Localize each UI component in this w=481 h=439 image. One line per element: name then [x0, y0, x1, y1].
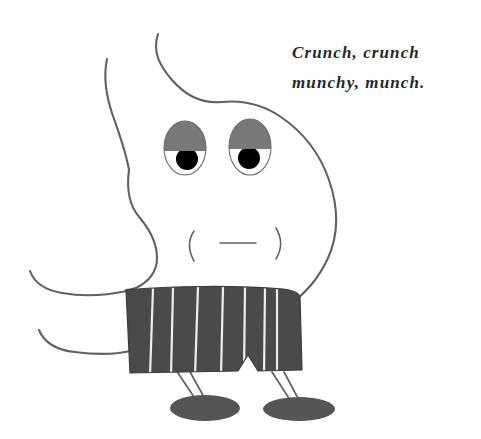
left-foot	[170, 395, 240, 421]
left-pupil	[176, 148, 198, 170]
right-foot	[263, 397, 335, 421]
striped-shorts	[126, 286, 302, 376]
caption-line-2: munchy, munch.	[292, 68, 478, 98]
speech-caption: Crunch, crunch munchy, munch.	[292, 38, 478, 98]
caption-line-1: Crunch, crunch	[292, 38, 478, 68]
shorts-stripe	[264, 288, 265, 376]
illustration-canvas: Crunch, crunch munchy, munch.	[0, 0, 481, 439]
right-pupil	[238, 147, 260, 169]
